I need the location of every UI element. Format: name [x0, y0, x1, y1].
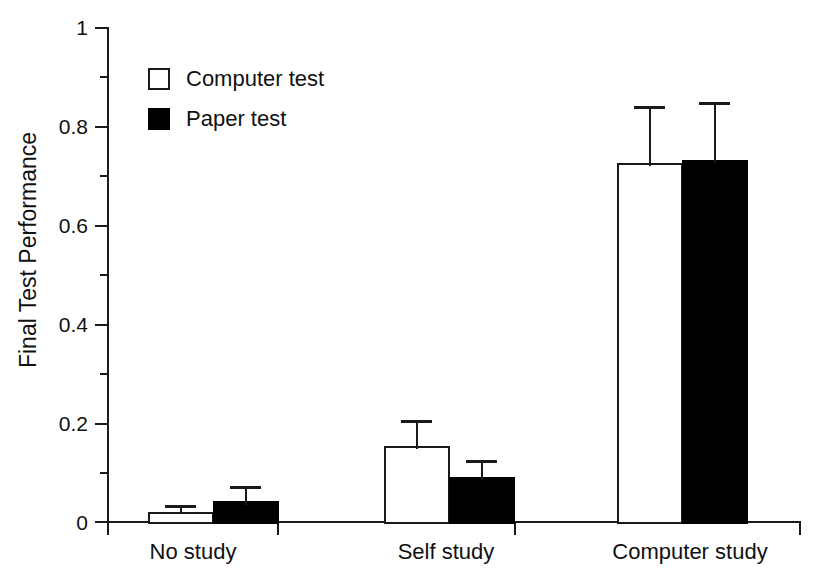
errorbar-cap-computer-study-computer-test: [634, 106, 665, 109]
legend-label-computer-test: Computer test: [186, 67, 324, 91]
bar-computer-study-paper-test: [682, 160, 748, 524]
x-tick-mark-end: [799, 522, 801, 535]
x-axis-label-no-study: No study: [133, 540, 253, 564]
x-axis-label-computer-study: Computer study: [600, 540, 780, 564]
bar-self-study-paper-test: [449, 477, 515, 524]
errorbar-cap-self-study-paper-test: [466, 460, 497, 463]
y-tick-0: 0: [20, 512, 88, 533]
errorbar-stem-computer-study-computer-test: [649, 107, 651, 166]
errorbar-cap-self-study-computer-test: [401, 420, 432, 423]
y-tick-0.8: 0.8: [20, 116, 88, 137]
errorbar-stem-self-study-paper-test: [481, 461, 483, 480]
bar-self-study-computer-test: [384, 446, 450, 524]
y-tick-label-0.4: 0.4: [28, 314, 88, 335]
legend: Computer test Paper test: [148, 62, 324, 142]
y-tick-label-0: 0: [28, 512, 88, 533]
y-axis-line: [107, 27, 109, 523]
legend-swatch-open-square-icon: [148, 68, 170, 90]
legend-label-paper-test: Paper test: [186, 107, 286, 131]
errorbar-cap-no-study-paper-test: [230, 486, 261, 489]
errorbar-cap-no-study-computer-test: [165, 505, 196, 508]
y-tick-label-0.6: 0.6: [28, 215, 88, 236]
legend-item-computer-test: Computer test: [148, 62, 324, 96]
errorbar-stem-no-study-paper-test: [245, 487, 247, 505]
y-tick-label-1: 1: [28, 17, 88, 38]
legend-item-paper-test: Paper test: [148, 102, 324, 136]
errorbar-stem-self-study-computer-test: [416, 421, 418, 449]
errorbar-stem-computer-study-paper-test: [714, 103, 716, 163]
x-axis-label-self-study: Self study: [386, 540, 506, 564]
y-tick-0.2: 0.2: [20, 413, 88, 434]
legend-swatch-filled-square-icon: [148, 108, 170, 130]
y-tick-label-0.8: 0.8: [28, 116, 88, 137]
errorbar-cap-computer-study-paper-test: [699, 102, 730, 105]
bar-computer-study-computer-test: [617, 163, 683, 524]
y-tick-1: 1: [20, 17, 88, 38]
x-tick-mark-start: [107, 522, 109, 535]
y-tick-label-0.2: 0.2: [28, 413, 88, 434]
bar-chart-figure: Final Test Performance 1 0.8 0.6 0.4 0.2…: [0, 0, 820, 582]
y-tick-0.4: 0.4: [20, 314, 88, 335]
y-axis-title: Final Test Performance: [16, 100, 40, 400]
y-tick-0.6: 0.6: [20, 215, 88, 236]
